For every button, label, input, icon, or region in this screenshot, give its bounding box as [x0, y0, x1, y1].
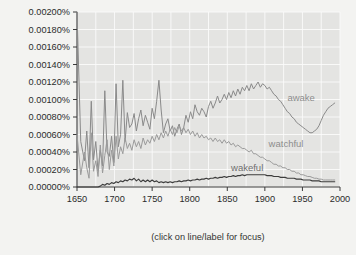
x-tick-label: 2000: [330, 194, 350, 204]
x-tick-label: 1850: [217, 194, 237, 204]
x-tick-label: 1700: [104, 194, 124, 204]
chart-canvas[interactable]: 0.00000%0.00020%0.00040%0.00060%0.00080%…: [0, 0, 356, 255]
x-tick-label: 1800: [179, 194, 199, 204]
series-label-awake[interactable]: awake: [287, 92, 314, 103]
x-axis-tick-labels: 16501700175018001850190019502000: [67, 194, 350, 204]
series-label-watchful[interactable]: watchful: [268, 138, 304, 149]
y-tick-label: 0.00200%: [29, 7, 70, 17]
ngram-chart-figure: 0.00000%0.00020%0.00040%0.00060%0.00080%…: [0, 0, 356, 255]
x-tick-label: 1750: [142, 194, 162, 204]
y-axis-tick-labels: 0.00000%0.00020%0.00040%0.00060%0.00080%…: [29, 7, 70, 192]
y-tick-label: 0.00080%: [29, 112, 70, 122]
y-tick-label: 0.00060%: [29, 130, 70, 140]
chart-caption: (click on line/label for focus): [151, 232, 264, 242]
x-tick-label: 1950: [292, 194, 312, 204]
x-tick-label: 1900: [255, 194, 275, 204]
y-tick-label: 0.00160%: [29, 42, 70, 52]
y-tick-label: 0.00040%: [29, 147, 70, 157]
series-label-wakeful[interactable]: wakeful: [230, 162, 263, 173]
y-tick-label: 0.00100%: [29, 95, 70, 105]
y-tick-label: 0.00140%: [29, 60, 70, 70]
y-tick-label: 0.00000%: [29, 182, 70, 192]
x-tick-label: 1650: [67, 194, 87, 204]
y-tick-label: 0.00120%: [29, 77, 70, 87]
y-tick-label: 0.00020%: [29, 165, 70, 175]
y-tick-label: 0.00180%: [29, 25, 70, 35]
